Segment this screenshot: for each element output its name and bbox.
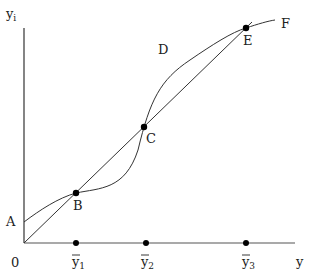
diagonal-line [24, 22, 252, 243]
svg-text:y1: y1 [71, 254, 85, 271]
label-c: C [146, 131, 156, 146]
x-axis-label: y [295, 254, 304, 269]
label-b: B [73, 198, 83, 213]
tick-ybar3: y3 [241, 254, 255, 271]
diagram-canvas: yi y 0 y1 y2 y3 A B C D E F [0, 0, 310, 276]
label-e: E [243, 33, 253, 48]
label-d: D [158, 42, 168, 57]
point-e-dot [243, 25, 249, 31]
point-b-dot [73, 190, 79, 196]
point-c-dot [141, 124, 147, 130]
tick-ybar1: y1 [71, 254, 85, 271]
y-axis-label: yi [5, 6, 16, 23]
ybar1-dot [73, 240, 79, 246]
ybar2-dot [143, 240, 149, 246]
svg-text:y2: y2 [140, 254, 154, 271]
tick-ybar2: y2 [140, 254, 154, 271]
ybar3-dot [243, 240, 249, 246]
origin-label: 0 [11, 255, 19, 270]
label-f: F [281, 16, 290, 31]
svg-text:y3: y3 [241, 254, 255, 271]
label-a: A [5, 214, 16, 229]
